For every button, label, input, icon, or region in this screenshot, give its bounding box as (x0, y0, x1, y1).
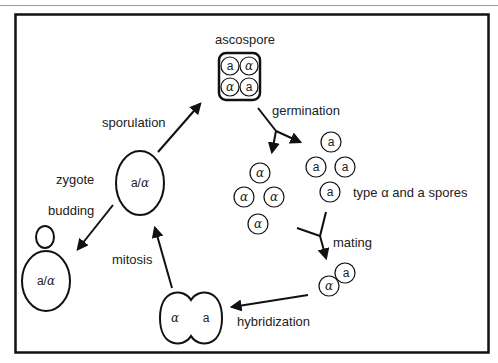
ascospore: ascospore a α α a (215, 32, 275, 100)
spores-type-label: type α and a spores (353, 185, 468, 200)
mating-label: mating (333, 235, 372, 250)
zygote-genotype: a/α (131, 176, 149, 190)
ascospore-label: ascospore (215, 32, 275, 47)
yeast-life-cycle-diagram: ascospore a α α a germination α α α α a … (0, 0, 498, 363)
zygote-label: zygote (56, 172, 94, 187)
alpha-spore: α (256, 166, 264, 180)
budding-genotype: a/α (37, 274, 55, 288)
a-spore: a (342, 160, 349, 174)
hybrid-cell: α a (160, 293, 222, 344)
ascospore-spore: α (245, 59, 253, 73)
mating-arrow (297, 212, 326, 258)
a-spores: a a a a (306, 132, 355, 202)
mitosis-arrow (155, 228, 172, 288)
alpha-spore: α (270, 190, 278, 204)
mating-alpha: α (325, 279, 333, 293)
alpha-spores: α α α α (234, 163, 284, 234)
mating-a: a (343, 266, 350, 280)
mating-pair: α a (319, 263, 355, 296)
germination-label: germination (272, 103, 340, 118)
a-spore: a (327, 185, 334, 199)
ascospore-spore: a (246, 80, 253, 94)
hybridization-arrow (232, 295, 308, 307)
budding-cell: a/α (22, 226, 70, 311)
a-spore: a (328, 135, 335, 149)
hybridization-label: hybridization (237, 314, 310, 329)
budding-label: budding (48, 203, 94, 218)
a-spore: a (313, 160, 320, 174)
hybrid-alpha: α (171, 311, 179, 325)
alpha-spore: α (240, 190, 248, 204)
ascospore-spore: α (226, 80, 234, 94)
zygote: a/α (116, 151, 164, 215)
mitosis-label: mitosis (112, 252, 153, 267)
sporulation-label: sporulation (102, 115, 166, 130)
ascospore-spore: a (227, 59, 234, 73)
alpha-spore: α (254, 217, 262, 231)
hybrid-a: a (203, 311, 210, 325)
